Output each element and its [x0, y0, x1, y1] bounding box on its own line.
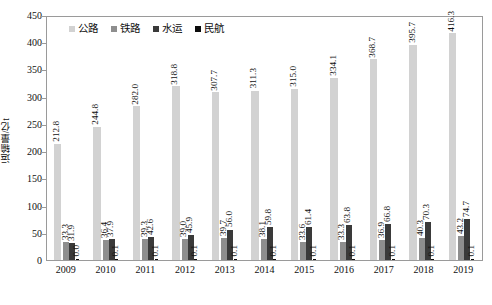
bar-value-label: 0.1	[348, 245, 358, 256]
x-tick-label-2009: 2009	[46, 264, 86, 275]
bar-group-2014: 311.338.159.80.1	[245, 17, 285, 260]
bar-value-label: 0.1	[269, 245, 279, 256]
bar-value-label: 56.0	[225, 211, 235, 227]
bar-value-label: 0.1	[388, 245, 398, 256]
bar-value-label: 0.1	[230, 245, 240, 256]
bar-民航-2018[interactable]	[431, 259, 434, 260]
bar-value-label: 395.7	[408, 22, 418, 43]
bar-民航-2017[interactable]	[392, 259, 395, 260]
bar-value-label: 0.1	[190, 245, 200, 256]
bar-value-label: 282.0	[131, 84, 141, 105]
x-tick-label-2011: 2011	[125, 264, 165, 275]
bar-value-label: 318.8	[170, 64, 180, 85]
bar-value-label: 45.9	[185, 217, 195, 233]
x-tick-label-2010: 2010	[86, 264, 126, 275]
bar-value-label: 0.1	[467, 245, 477, 256]
bar-民航-2015[interactable]	[313, 259, 316, 260]
x-tick-label-2017: 2017	[364, 264, 404, 275]
bar-group-2018: 395.740.370.30.1	[403, 17, 443, 260]
bar-groups: 212.833.331.90.0244.836.437.90.1282.039.…	[47, 17, 482, 260]
bar-value-label: 74.7	[462, 201, 472, 217]
bar-value-label: 0.1	[111, 245, 121, 256]
bar-group-2009: 212.833.331.90.0	[47, 17, 87, 260]
bar-group-2010: 244.836.437.90.1	[87, 17, 127, 260]
x-tick-label-2012: 2012	[165, 264, 205, 275]
bar-value-label: 37.9	[106, 221, 116, 237]
bar-value-label: 311.3	[249, 68, 259, 88]
bar-value-label: 212.8	[52, 121, 62, 142]
bar-group-2019: 416.343.274.70.1	[442, 17, 482, 260]
bar-value-label: 334.1	[329, 55, 339, 76]
bar-group-2013: 307.739.756.00.1	[205, 17, 245, 260]
bar-value-label: 70.3	[422, 204, 432, 220]
bar-民航-2013[interactable]	[234, 259, 237, 260]
bar-value-label: 0.1	[427, 245, 437, 256]
bar-group-2015: 315.033.661.40.1	[284, 17, 324, 260]
y-axis-title: 运输量/亿t	[1, 118, 15, 163]
x-tick-label-2018: 2018	[404, 264, 444, 275]
bar-公路-2010[interactable]	[93, 127, 101, 260]
bar-value-label: 63.8	[343, 207, 353, 223]
bar-group-2016: 334.133.363.80.1	[324, 17, 364, 260]
bar-value-label: 66.8	[383, 206, 393, 222]
bar-民航-2012[interactable]	[194, 259, 197, 260]
bar-民航-2011[interactable]	[155, 259, 158, 260]
x-tick-label-2019: 2019	[443, 264, 483, 275]
x-tick-label-2016: 2016	[324, 264, 364, 275]
x-tick-label-2014: 2014	[245, 264, 285, 275]
bar-value-label: 368.7	[368, 37, 378, 58]
bar-value-label: 0.1	[151, 245, 161, 256]
bar-value-label: 0.0	[72, 245, 82, 256]
bar-value-label: 31.9	[67, 225, 77, 241]
bar-value-label: 42.6	[146, 219, 156, 235]
bar-民航-2016[interactable]	[352, 259, 355, 260]
bar-value-label: 315.0	[289, 66, 299, 87]
bar-value-label: 307.7	[210, 70, 220, 91]
bar-民航-2009[interactable]	[76, 259, 79, 260]
bar-chart: 运输量/亿t 450400350300250200150100500 公路铁路水…	[0, 0, 492, 305]
x-tick-label-2013: 2013	[205, 264, 245, 275]
plot-area: 公路铁路水运民航 212.833.331.90.0244.836.437.90.…	[46, 16, 483, 261]
bar-group-2017: 368.736.966.80.1	[363, 17, 403, 260]
bar-value-label: 59.8	[264, 209, 274, 225]
bar-民航-2014[interactable]	[273, 259, 276, 260]
bar-group-2012: 318.839.045.90.1	[166, 17, 206, 260]
bar-value-label: 61.4	[304, 209, 314, 225]
bar-value-label: 0.1	[309, 245, 319, 256]
bar-公路-2009[interactable]	[54, 144, 62, 260]
x-tick-label-2015: 2015	[284, 264, 324, 275]
x-axis-tick-labels: 2009201020112012201320142015201620172018…	[46, 264, 483, 275]
bar-value-label: 416.3	[447, 11, 457, 32]
bar-group-2011: 282.039.342.60.1	[126, 17, 166, 260]
bar-value-label: 244.8	[91, 104, 101, 125]
bar-民航-2010[interactable]	[115, 259, 118, 260]
bar-民航-2019[interactable]	[471, 259, 474, 260]
